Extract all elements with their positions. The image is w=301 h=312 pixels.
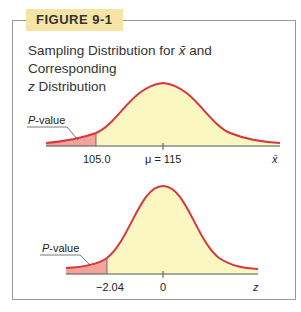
bottom-pvalue-label: P-value (42, 242, 79, 254)
top-pvalue-label: P-value (28, 114, 65, 126)
top-tick-mu: μ = 115 (145, 153, 181, 165)
charts-svg: P-value 105.0 μ = 115 x̄ P-value −2.04 0… (0, 0, 301, 312)
top-chart: P-value 105.0 μ = 115 x̄ (27, 83, 280, 165)
bottom-axis-label: z (252, 281, 259, 293)
top-axis-label: x̄ (271, 153, 278, 165)
top-tick-105: 105.0 (83, 153, 111, 165)
bottom-chart: P-value −2.04 0 z (40, 186, 259, 293)
bottom-tick-neg204: −2.04 (96, 281, 124, 293)
bottom-curve-fill (66, 186, 258, 274)
bottom-tick-zero: 0 (160, 281, 166, 293)
